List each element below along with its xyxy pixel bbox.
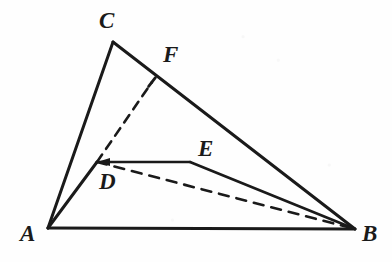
vertex-label-F: F <box>163 43 178 66</box>
vertex-label-A: A <box>20 222 35 245</box>
vertex-label-B: B <box>362 222 377 245</box>
segment-AC <box>48 42 113 228</box>
geometry-figure: C A B D E F <box>0 0 392 262</box>
segment-DB <box>97 162 355 229</box>
segment-EB <box>190 162 355 229</box>
segment-AD <box>48 162 97 228</box>
segment-AB <box>48 228 355 229</box>
segment-CB <box>113 42 355 229</box>
perpendicular-tick-icon <box>149 78 156 87</box>
vertex-label-E: E <box>198 137 213 160</box>
diagram-canvas <box>0 0 392 262</box>
vertex-label-C: C <box>99 9 114 32</box>
segment-DF <box>97 82 152 162</box>
segment-group-dashed <box>97 82 355 229</box>
vertex-label-D: D <box>99 170 116 193</box>
